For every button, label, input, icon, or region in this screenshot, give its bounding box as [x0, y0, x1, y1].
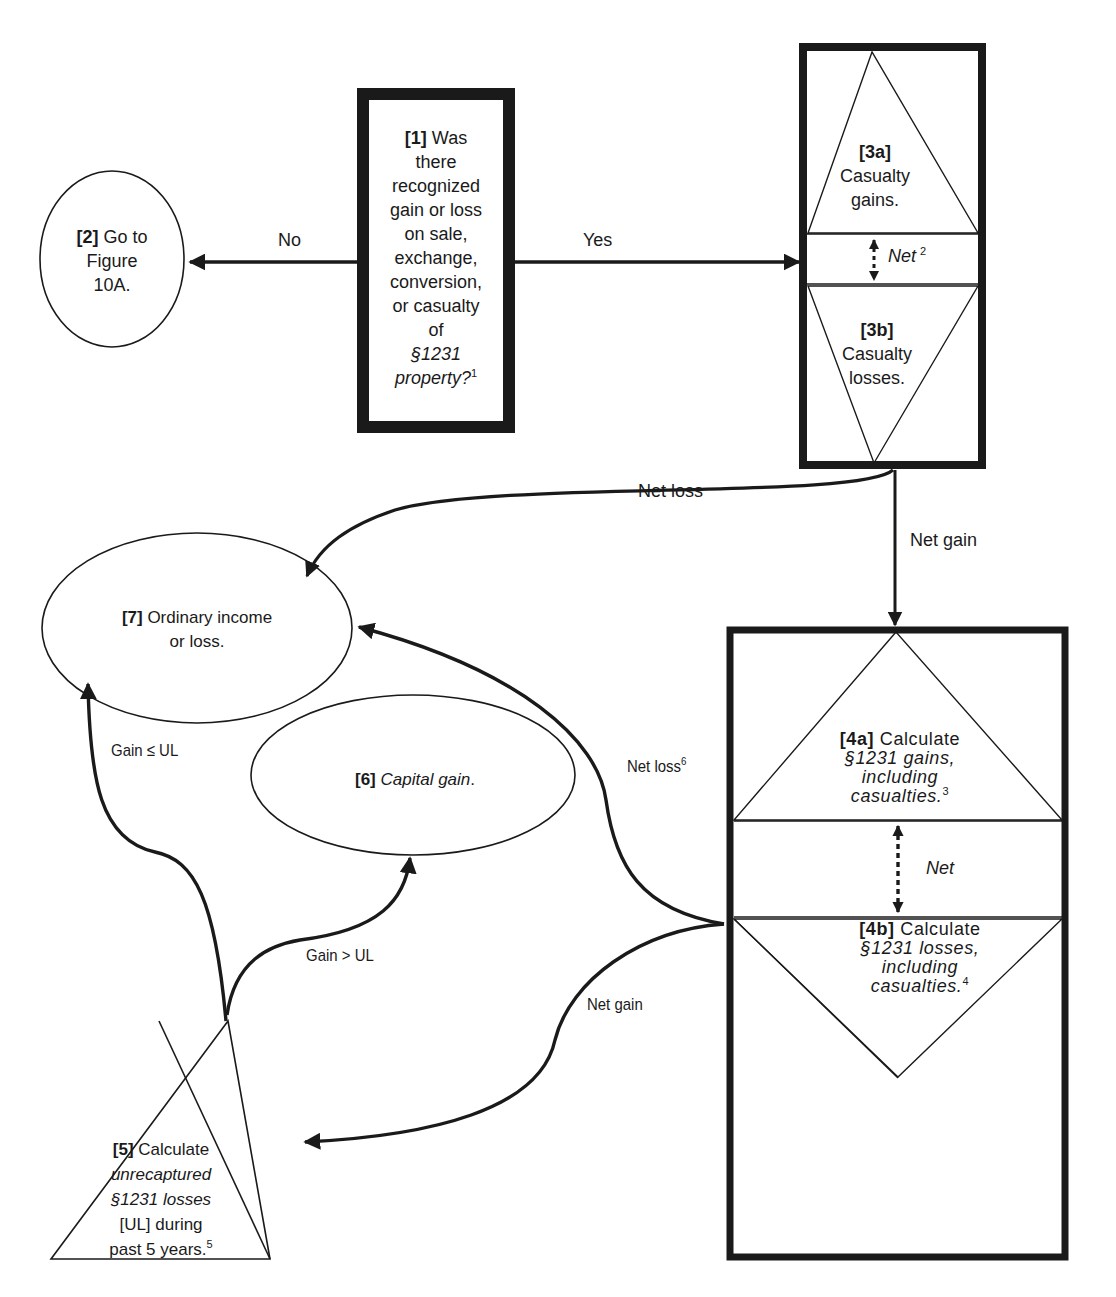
node-3-net-label: Net2	[888, 245, 926, 267]
node-5-number: [5]	[113, 1140, 134, 1159]
edge-label-yes: Yes	[583, 229, 612, 251]
footnote-3: 3	[942, 785, 949, 797]
node-7-line: Ordinary income	[147, 608, 272, 627]
node-4b-line: including	[882, 957, 958, 977]
node-6-period: .	[470, 770, 475, 789]
node-1-label: [1] Was there recognized gain or loss on…	[370, 126, 502, 390]
edge-label-net-loss-3: Net loss	[638, 480, 703, 502]
node-1-line: there	[370, 150, 502, 174]
net-text: Net	[926, 858, 954, 878]
node-4b-line: Calculate	[900, 919, 980, 939]
node-4b-number: [4b]	[859, 919, 894, 939]
node-2-line: Figure	[50, 249, 174, 273]
node-4-net-label: Net	[926, 857, 954, 879]
node-4a-line: §1231 gains,	[845, 748, 955, 768]
node-1-line: of	[370, 318, 502, 342]
node-1-property: property?	[395, 368, 471, 388]
edge-label-gain-le-ul: Gain ≤ UL	[111, 740, 178, 762]
node-1-line: or casualty	[370, 294, 502, 318]
node-4a-number: [4a]	[840, 729, 874, 749]
node-3b-label: [3b] Casualty losses.	[822, 318, 932, 390]
node-2-line: Go to	[103, 227, 147, 247]
node-4a-line: casualties.	[851, 786, 943, 806]
node-7-number: [7]	[122, 608, 143, 627]
node-4b-line: casualties.	[871, 976, 963, 996]
node-6-number: [6]	[355, 770, 376, 789]
edge-gain-gt-ul-arrow[interactable]	[227, 858, 410, 1015]
edge-label-net-gain-3: Net gain	[910, 529, 977, 551]
edge-label-gain-gt-ul: Gain > UL	[306, 945, 374, 967]
node-1-section: §1231	[411, 344, 461, 364]
node-1-line: exchange,	[370, 246, 502, 270]
node-3a-line: gains.	[820, 188, 930, 212]
footnote-6: 6	[681, 755, 686, 767]
edge-net-loss-3-arrow[interactable]	[307, 470, 893, 576]
node-7-line: or loss.	[82, 630, 312, 654]
node-5-line: past 5 years.	[109, 1240, 206, 1259]
node-4a-line: including	[862, 767, 938, 787]
node-2-label: [2] Go to Figure 10A.	[50, 225, 174, 297]
node-5-line: Calculate	[138, 1140, 209, 1159]
net-text: Net	[888, 246, 916, 266]
node-6-capital-gain: Capital gain	[381, 770, 471, 789]
node-3b-line: Casualty	[822, 342, 932, 366]
node-4a-label: [4a] Calculate §1231 gains, including ca…	[820, 730, 980, 806]
node-3a-label: [3a] Casualty gains.	[820, 140, 930, 212]
footnote-5: 5	[207, 1238, 213, 1250]
node-7-label: [7] Ordinary income or loss.	[82, 606, 312, 654]
node-1-line: on sale,	[370, 222, 502, 246]
edge-label-net-gain-4: Net gain	[587, 994, 643, 1016]
footnote-2: 2	[920, 245, 926, 257]
net-loss-text: Net loss	[627, 757, 681, 776]
node-5-line: §1231 losses	[111, 1190, 211, 1209]
node-6-label: [6] Capital gain.	[300, 768, 530, 792]
node-3b-number: [3b]	[861, 320, 894, 340]
node-3a-number: [3a]	[859, 142, 891, 162]
node-5-line: unrecaptured	[111, 1165, 211, 1184]
edge-label-net-loss-4: Net loss6	[627, 756, 686, 778]
node-1-line: conversion,	[370, 270, 502, 294]
edge-label-no: No	[278, 229, 301, 251]
node-2-number: [2]	[76, 227, 98, 247]
node-2-line: 10A.	[50, 273, 174, 297]
node-4b-label: [4b] Calculate §1231 losses, including c…	[840, 920, 1000, 996]
node-3b-line: losses.	[822, 366, 932, 390]
node-1-line: gain or loss	[370, 198, 502, 222]
node-1-number: [1]	[405, 128, 427, 148]
node-1-line: recognized	[370, 174, 502, 198]
node-3a-line: Casualty	[820, 164, 930, 188]
footnote-4: 4	[962, 975, 969, 987]
node-4b-line: §1231 losses,	[861, 938, 980, 958]
node-4a-line: Calculate	[880, 729, 960, 749]
node-5-line: [UL] during	[100, 1212, 222, 1237]
node-1-line: Was	[432, 128, 467, 148]
footnote-1: 1	[471, 367, 477, 379]
node-5-label: [5] Calculate unrecaptured §1231 losses …	[100, 1137, 222, 1262]
edge-gain-le-ul-arrow[interactable]	[88, 684, 226, 1021]
